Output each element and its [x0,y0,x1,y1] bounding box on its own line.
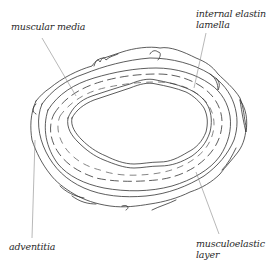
label-muscular-media: muscular media [11,21,85,32]
adventitia-fragment [33,104,36,114]
media-dashed-layer [51,74,222,181]
adventitia-outer-edge [31,47,246,207]
label-adventitia: adventitia [9,241,55,252]
adventitia-fragment [122,205,128,210]
adventitia-fragment [72,196,96,204]
lumen-edge [72,83,208,164]
label-internal-elastin-line2: lamella [196,19,266,30]
leader-line-adventitia [32,140,35,238]
label-adventitia-text: adventitia [9,241,55,252]
label-musculoelastic-line2: layer [196,249,265,260]
media-dashed-layer-2 [58,82,214,175]
label-muscular-media-text: muscular media [11,21,85,32]
adventitia-fragment [222,148,236,170]
label-internal-elastin-lamella: internal elastin lamella [196,8,266,30]
label-musculoelastic-layer: musculoelastic layer [196,238,265,260]
artery-cross-section-drawing [0,0,271,270]
media-outer-edge [45,68,230,191]
label-musculoelastic-line1: musculoelastic [196,238,265,249]
adventitia-fragment [150,51,160,60]
artery-diagram: muscular media internal elastin lamella … [0,0,271,270]
label-internal-elastin-line1: internal elastin [196,8,266,19]
leader-line-muscular-media [42,38,76,96]
leader-line-musculoelastic [196,172,219,234]
leader-line-internal-elastin [194,33,206,88]
